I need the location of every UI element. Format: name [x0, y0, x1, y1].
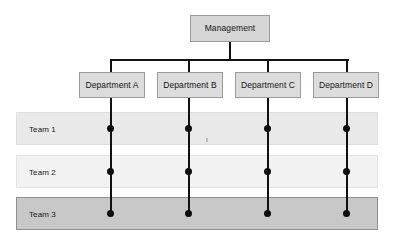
org-chart-diagram: Team 1 Team 2 Team 3 Management Departme…	[0, 0, 394, 237]
team-row: Team 1	[16, 112, 378, 145]
node-department-b-label: Department B	[163, 81, 217, 90]
intersection-dot[interactable]	[343, 210, 350, 217]
intersection-dot[interactable]	[107, 210, 114, 217]
intersection-dot[interactable]	[107, 168, 114, 175]
intersection-dot[interactable]	[185, 210, 192, 217]
intersection-dot[interactable]	[343, 168, 350, 175]
intersection-dot[interactable]	[185, 168, 192, 175]
node-department-a-label: Department A	[85, 81, 138, 90]
intersection-dot[interactable]	[264, 125, 271, 132]
intersection-dot[interactable]	[343, 125, 350, 132]
department-column-line-d	[346, 97, 348, 214]
node-department-a[interactable]: Department A	[79, 72, 145, 98]
artifact-speck	[206, 138, 208, 142]
node-management[interactable]: Management	[190, 15, 270, 42]
team-row-label: Team 3	[29, 209, 56, 218]
node-management-label: Management	[205, 24, 256, 33]
node-department-b[interactable]: Department B	[157, 72, 223, 98]
team-row-label: Team 2	[29, 167, 56, 176]
department-drop-line-d	[346, 59, 348, 73]
intersection-dot[interactable]	[185, 125, 192, 132]
department-column-line-c	[267, 97, 269, 214]
team-row-label: Team 1	[29, 124, 56, 133]
intersection-dot[interactable]	[264, 168, 271, 175]
node-department-d[interactable]: Department D	[313, 72, 379, 98]
department-drop-line-a	[110, 59, 112, 73]
node-department-c[interactable]: Department C	[235, 72, 301, 98]
department-column-line-b	[188, 97, 190, 214]
team-row: Team 2	[16, 155, 378, 188]
node-department-d-label: Department D	[319, 81, 373, 90]
department-drop-line-b	[188, 59, 190, 73]
intersection-dot[interactable]	[107, 125, 114, 132]
department-connector-bar	[110, 59, 349, 61]
node-department-c-label: Department C	[241, 81, 295, 90]
department-drop-line-c	[267, 59, 269, 73]
intersection-dot[interactable]	[264, 210, 271, 217]
department-column-line-a	[110, 97, 112, 214]
team-row: Team 3	[16, 197, 378, 230]
